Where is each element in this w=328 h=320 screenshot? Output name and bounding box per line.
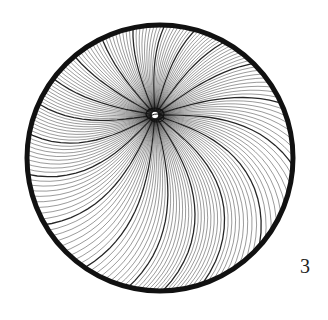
page-number: 3 xyxy=(300,256,310,276)
vortex-illustration xyxy=(0,0,328,320)
